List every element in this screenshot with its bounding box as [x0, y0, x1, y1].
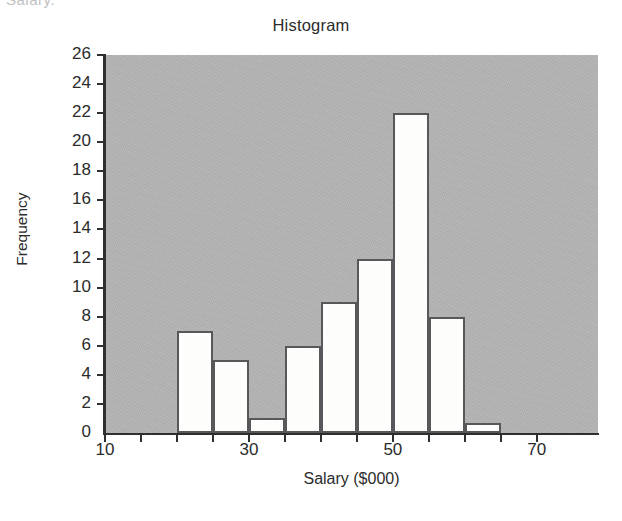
x-axis-tick: [284, 434, 286, 442]
plot-area: [105, 55, 598, 433]
y-axis-tick: [97, 199, 105, 201]
y-axis-tick: [97, 403, 105, 405]
x-axis-tick: [428, 434, 430, 442]
y-axis-tick: [97, 228, 105, 230]
chart-title: Histogram: [0, 16, 622, 35]
y-axis-tick: [97, 83, 105, 85]
x-axis-tick: [140, 434, 142, 442]
y-axis-tick-label: 6: [51, 335, 91, 355]
y-axis-tick-label: 2: [51, 393, 91, 413]
histogram-bar: [249, 418, 285, 433]
y-axis-tick-label: 14: [51, 218, 91, 238]
x-axis-tick: [176, 434, 178, 442]
y-axis-title: Frequency: [13, 129, 31, 329]
y-axis-tick: [97, 287, 105, 289]
y-axis-tick-label: 26: [51, 44, 91, 64]
y-axis-tick-label: 10: [51, 277, 91, 297]
histogram-bar: [429, 317, 465, 433]
y-axis-tick: [97, 141, 105, 143]
x-axis-tick-label: 50: [363, 440, 423, 460]
x-axis-title: Salary ($000): [105, 470, 598, 488]
x-axis-tick: [500, 434, 502, 442]
x-axis-tick: [464, 434, 466, 442]
y-axis-tick: [97, 345, 105, 347]
x-axis-tick: [320, 434, 322, 442]
x-axis-tick-label: 70: [507, 440, 567, 460]
y-axis-tick-label: 0: [51, 422, 91, 442]
y-axis-tick-label: 20: [51, 131, 91, 151]
y-axis-tick: [97, 54, 105, 56]
y-axis-line: [103, 54, 106, 435]
x-axis-tick: [212, 434, 214, 442]
y-axis-tick-label: 4: [51, 364, 91, 384]
histogram-bar: [393, 113, 429, 433]
x-axis-tick-label: 10: [75, 440, 135, 460]
histogram-figure: Salary. Histogram 0246810121416182022242…: [0, 0, 622, 521]
y-axis-tick-label: 18: [51, 160, 91, 180]
y-axis-tick: [97, 258, 105, 260]
y-axis-tick: [97, 316, 105, 318]
histogram-bar: [357, 259, 393, 433]
histogram-bar: [177, 331, 213, 433]
y-axis-tick-label: 22: [51, 102, 91, 122]
histogram-bar: [213, 360, 249, 433]
y-axis-tick-label: 16: [51, 189, 91, 209]
histogram-bar: [465, 423, 501, 433]
y-axis-tick: [97, 170, 105, 172]
y-axis-tick: [97, 374, 105, 376]
x-axis-tick: [356, 434, 358, 442]
histogram-bar: [285, 346, 321, 433]
histogram-bar: [321, 302, 357, 433]
y-axis-tick-label: 24: [51, 73, 91, 93]
y-axis-tick-label: 12: [51, 248, 91, 268]
y-axis-tick: [97, 112, 105, 114]
y-axis-tick-label: 8: [51, 306, 91, 326]
x-axis-tick-label: 30: [219, 440, 279, 460]
